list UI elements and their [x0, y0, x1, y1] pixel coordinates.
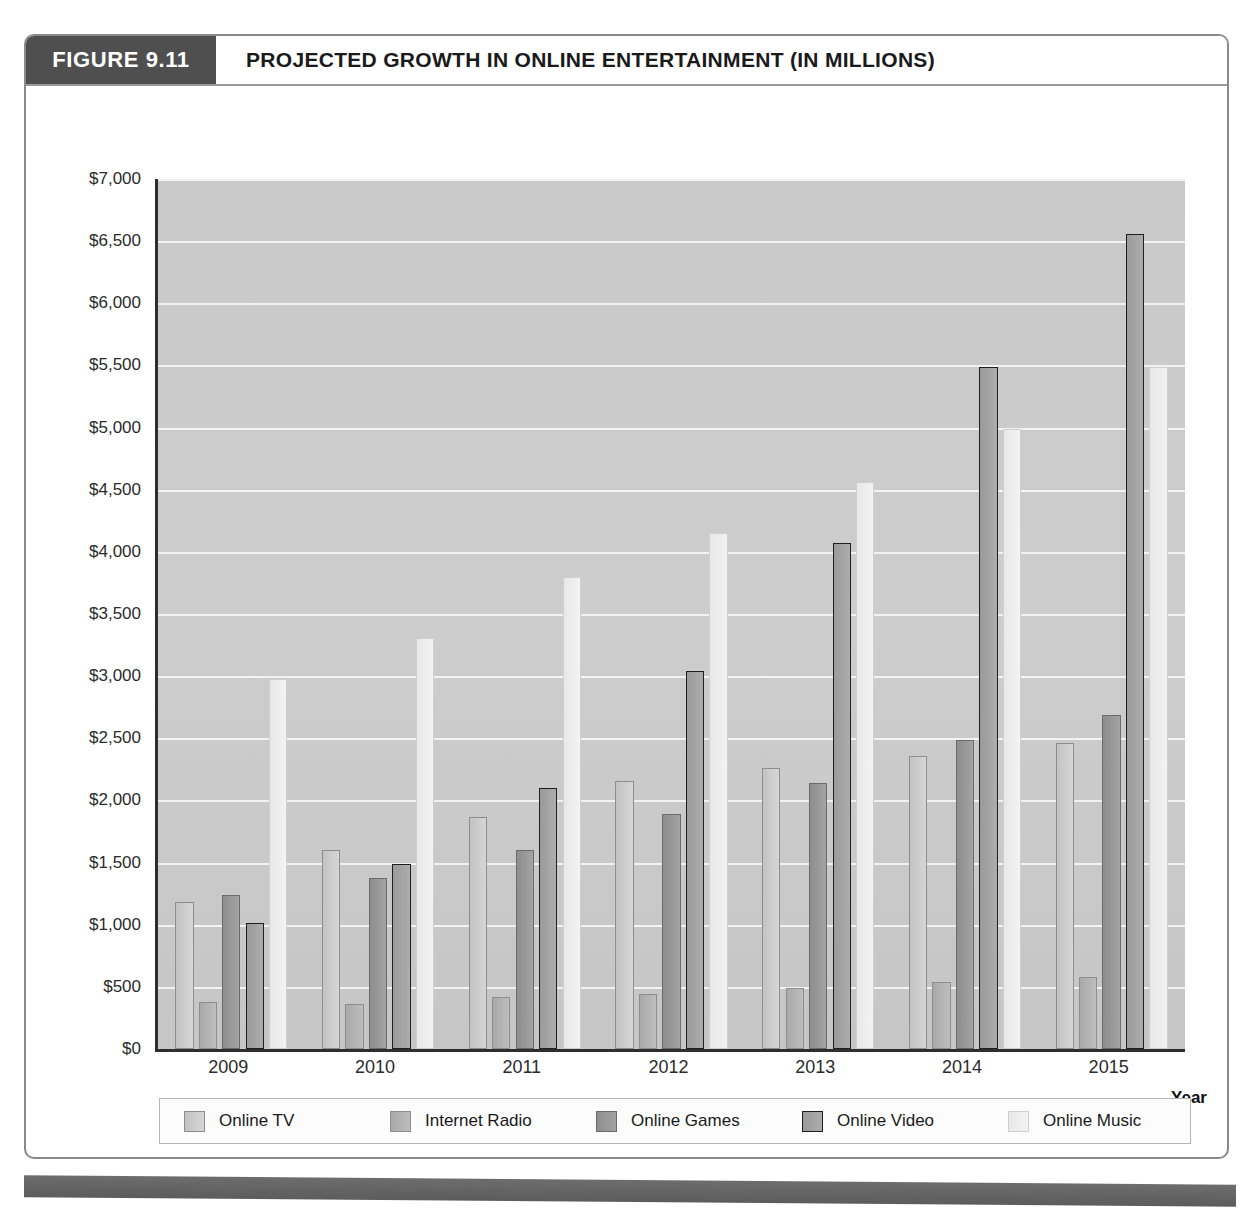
x-tick-label: 2009 — [208, 1057, 248, 1078]
legend-swatch-online-music — [1008, 1111, 1029, 1132]
y-tick-label: $1,000 — [89, 915, 141, 935]
legend-item[interactable]: Internet Radio — [366, 1111, 572, 1132]
bar-online-video-2012 — [686, 671, 704, 1049]
bar-online-tv-2010 — [322, 850, 340, 1049]
bar-internet-radio-2010 — [345, 1004, 363, 1049]
x-tick-label: 2014 — [942, 1057, 982, 1078]
bar-online-video-2011 — [539, 788, 557, 1049]
legend-item[interactable]: Online Music — [984, 1111, 1190, 1132]
y-tick-label: $1,500 — [89, 853, 141, 873]
y-tick-label: $4,500 — [89, 480, 141, 500]
legend-swatch-online-tv — [184, 1111, 205, 1132]
x-tick-label: 2010 — [355, 1057, 395, 1078]
bar-online-games-2009 — [222, 895, 240, 1049]
bar-online-video-2010 — [392, 864, 410, 1049]
legend-label: Online Games — [631, 1111, 740, 1131]
bar-online-tv-2009 — [175, 902, 193, 1049]
chart-legend: Online TVInternet RadioOnline GamesOnlin… — [159, 1098, 1191, 1144]
figure-container: FIGURE 9.11 PROJECTED GROWTH IN ONLINE E… — [24, 34, 1229, 1159]
x-tick-label: 2011 — [502, 1057, 541, 1078]
bar-online-tv-2012 — [615, 781, 633, 1049]
bar-online-music-2014 — [1003, 429, 1021, 1049]
bar-online-video-2015 — [1126, 234, 1144, 1049]
bar-online-video-2014 — [979, 367, 997, 1049]
bar-internet-radio-2013 — [786, 988, 804, 1049]
figure-footer-bar — [24, 1175, 1236, 1207]
figure-title: PROJECTED GROWTH IN ONLINE ENTERTAINMENT… — [216, 36, 1227, 84]
bar-internet-radio-2011 — [492, 997, 510, 1049]
y-tick-label: $3,000 — [89, 666, 141, 686]
bar-internet-radio-2012 — [639, 994, 657, 1049]
legend-label: Online TV — [219, 1111, 294, 1131]
bar-online-tv-2014 — [909, 756, 927, 1049]
bar-online-music-2011 — [563, 577, 581, 1049]
figure-number-label: FIGURE 9.11 — [26, 36, 216, 84]
x-tick-label: 2012 — [648, 1057, 688, 1078]
chart-canvas: $7,000$6,500$6,000$5,500$5,000$4,500$4,0… — [26, 88, 1231, 1103]
legend-item[interactable]: Online Games — [572, 1111, 778, 1132]
y-tick-label: $0 — [122, 1039, 141, 1059]
legend-swatch-internet-radio — [390, 1111, 411, 1132]
bar-online-games-2012 — [662, 814, 680, 1049]
y-tick-label: $5,000 — [89, 418, 141, 438]
y-tick-label: $4,000 — [89, 542, 141, 562]
y-tick-label: $7,000 — [89, 169, 141, 189]
x-axis: 2009201020112012201320142015 — [155, 1053, 1182, 1093]
bar-internet-radio-2009 — [199, 1002, 217, 1049]
y-tick-label: $6,500 — [89, 231, 141, 251]
bars-layer — [158, 179, 1185, 1049]
legend-swatch-online-games — [596, 1111, 617, 1132]
figure-header: FIGURE 9.11 PROJECTED GROWTH IN ONLINE E… — [26, 36, 1227, 84]
bar-online-music-2013 — [856, 482, 874, 1049]
bar-online-tv-2015 — [1056, 743, 1074, 1049]
plot-area — [155, 179, 1185, 1052]
legend-label: Internet Radio — [425, 1111, 532, 1131]
bar-internet-radio-2014 — [932, 982, 950, 1049]
legend-item[interactable]: Online Video — [778, 1111, 984, 1132]
y-tick-label: $2,000 — [89, 790, 141, 810]
bar-internet-radio-2015 — [1079, 977, 1097, 1049]
header-divider — [26, 84, 1227, 86]
y-tick-label: $6,000 — [89, 293, 141, 313]
bar-online-video-2013 — [833, 543, 851, 1049]
bar-online-music-2012 — [709, 533, 727, 1049]
y-axis: $7,000$6,500$6,000$5,500$5,000$4,500$4,0… — [26, 88, 155, 1103]
y-tick-label: $2,500 — [89, 728, 141, 748]
legend-label: Online Music — [1043, 1111, 1141, 1131]
bar-online-tv-2011 — [469, 817, 487, 1049]
bar-online-tv-2013 — [762, 768, 780, 1049]
bar-online-music-2009 — [269, 679, 287, 1049]
x-tick-label: 2013 — [795, 1057, 835, 1078]
x-tick-label: 2015 — [1089, 1057, 1129, 1078]
legend-label: Online Video — [837, 1111, 934, 1131]
bar-online-games-2011 — [516, 850, 534, 1049]
bar-online-games-2015 — [1102, 715, 1120, 1049]
bar-online-music-2015 — [1149, 367, 1167, 1049]
bar-online-music-2010 — [416, 638, 434, 1049]
y-tick-label: $5,500 — [89, 355, 141, 375]
bar-online-games-2013 — [809, 783, 827, 1049]
legend-item[interactable]: Online TV — [160, 1111, 366, 1132]
y-tick-label: $500 — [103, 977, 141, 997]
bar-online-games-2010 — [369, 878, 387, 1050]
legend-swatch-online-video — [802, 1111, 823, 1132]
bar-online-games-2014 — [956, 740, 974, 1049]
y-tick-label: $3,500 — [89, 604, 141, 624]
bar-online-video-2009 — [246, 923, 264, 1049]
